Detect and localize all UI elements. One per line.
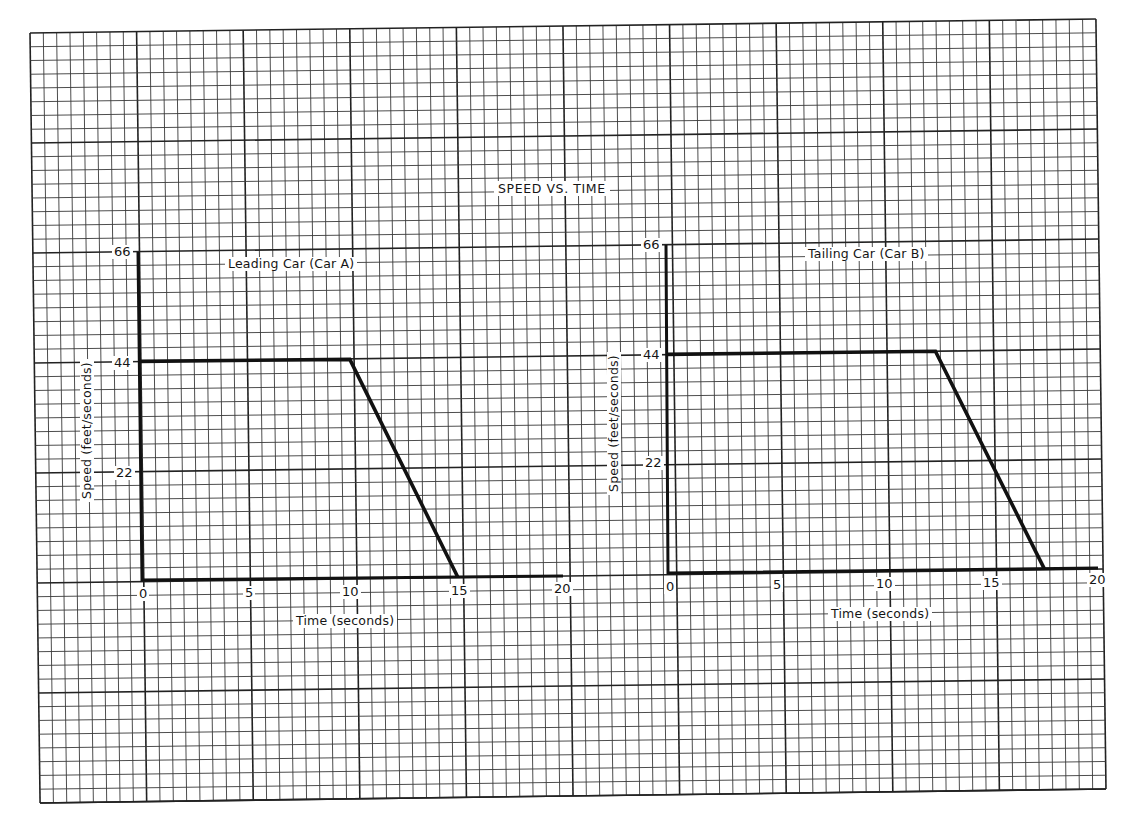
chart-b-xtick-15: 15 [981, 576, 1002, 590]
graph-paper-figure: SPEED VS. TIME Leading Car (Car A) Time … [0, 0, 1133, 831]
figure-title: SPEED VS. TIME [494, 181, 610, 196]
chart-b-xlabel: Time (seconds) [828, 607, 932, 621]
chart-a-plot [138, 252, 563, 580]
chart-a-ylabel: Speed (feet/seconds) [80, 359, 94, 502]
chart-b-ytick-66: 66 [641, 238, 662, 252]
chart-a-xtick-0: 0 [137, 587, 149, 601]
chart-b-ytick-44: 44 [641, 348, 662, 362]
chart-a-title: Leading Car (Car A) [225, 257, 357, 271]
speed-series-line [667, 351, 1045, 568]
chart-b-xtick-0: 0 [664, 580, 676, 594]
chart-b-xtick-5: 5 [771, 578, 783, 592]
axes [138, 252, 563, 580]
chart-a-xtick-10: 10 [340, 585, 361, 599]
chart-b-ytick-22: 22 [643, 456, 664, 470]
chart-a-ytick-22: 22 [114, 466, 135, 480]
speed-series-line [139, 359, 457, 577]
chart-a-ytick-44: 44 [112, 356, 133, 370]
chart-a-xtick-15: 15 [449, 584, 470, 598]
chart-b-title: Tailing Car (Car B) [805, 247, 928, 261]
chart-b-ylabel: Speed (feet/seconds) [607, 352, 621, 495]
chart-b-xtick-20: 20 [1087, 573, 1108, 587]
chart-b-plot [666, 245, 1098, 573]
axes [666, 245, 1098, 573]
chart-a-xtick-20: 20 [552, 582, 573, 596]
chart-a-xtick-5: 5 [243, 586, 255, 600]
plot-lines [0, 0, 1133, 831]
chart-a-xlabel: Time (seconds) [293, 614, 397, 628]
chart-b-xtick-10: 10 [874, 577, 895, 591]
chart-a-ytick-66: 66 [112, 245, 133, 259]
